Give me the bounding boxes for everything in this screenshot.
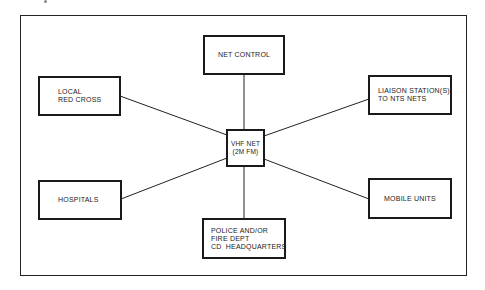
- node-label: LOCAL RED CROSS: [58, 88, 101, 104]
- node-label: LIAISON STATION(S) TO NTS NETS: [378, 87, 450, 103]
- node-local-red-cross: LOCAL RED CROSS: [38, 76, 121, 116]
- edge-local-red-cross: [120, 96, 227, 135]
- node-hospitals: HOSPITALS: [38, 180, 122, 220]
- edge-mobile-units: [264, 159, 369, 199]
- edge-hospitals: [121, 158, 227, 199]
- node-label: MOBILE UNITS: [384, 195, 436, 203]
- node-label: NET CONTROL: [218, 51, 270, 59]
- node-label: POLICE AND/OR FIRE DEPT CD HEADQUARTERS: [211, 227, 286, 251]
- node-police-fire-cd: POLICE AND/OR FIRE DEPT CD HEADQUARTERS: [202, 218, 286, 259]
- node-label: HOSPITALS: [58, 196, 99, 204]
- node-net-control: NET CONTROL: [203, 35, 285, 75]
- node-mobile-units: MOBILE UNITS: [368, 178, 452, 219]
- node-label: VHF NET (2M FM): [231, 140, 260, 156]
- node-vhf-net: VHF NET (2M FM): [226, 129, 265, 167]
- edge-liaison-stations: [264, 99, 369, 136]
- node-liaison-stations: LIAISON STATION(S) TO NTS NETS: [368, 75, 452, 115]
